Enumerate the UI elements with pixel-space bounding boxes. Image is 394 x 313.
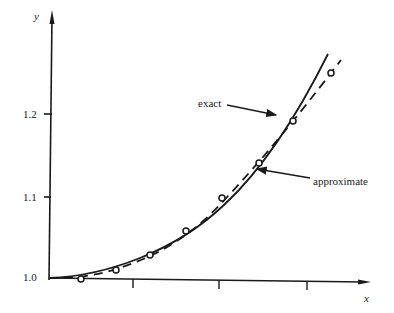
exact-annotation-label: exact bbox=[198, 97, 221, 109]
data-point bbox=[328, 70, 334, 76]
x-axis-arrow-icon bbox=[358, 280, 371, 285]
y-axis-arrow-icon bbox=[50, 10, 55, 24]
data-point bbox=[78, 276, 84, 282]
data-point bbox=[290, 118, 296, 124]
data-point bbox=[183, 228, 189, 234]
data-point bbox=[147, 252, 153, 258]
x-axis bbox=[49, 278, 371, 290]
approximate-curve bbox=[49, 60, 341, 278]
exact-curve bbox=[49, 54, 328, 278]
approximate-arrow-icon bbox=[257, 169, 310, 178]
chart: y x 1.0 1.1 1.2 exact approximate bbox=[0, 0, 394, 313]
data-point bbox=[113, 267, 119, 273]
y-tick-label-1.2: 1.2 bbox=[23, 108, 37, 120]
y-axis-label: y bbox=[33, 10, 39, 22]
exact-arrow-icon bbox=[227, 105, 276, 115]
y-axis bbox=[44, 10, 55, 280]
data-point bbox=[219, 195, 225, 201]
y-tick-label-1.0: 1.0 bbox=[23, 271, 37, 283]
data-point bbox=[256, 160, 262, 166]
approximate-annotation-label: approximate bbox=[313, 175, 368, 187]
y-tick-label-1.1: 1.1 bbox=[23, 191, 37, 203]
x-axis-label: x bbox=[363, 292, 369, 304]
